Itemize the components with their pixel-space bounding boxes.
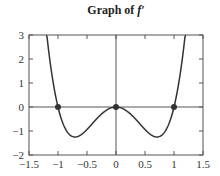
y-tick-label: 1 — [19, 77, 25, 89]
y-tick-label: 3 — [19, 29, 25, 41]
x-tick-label: 1.5 — [196, 158, 210, 170]
x-tick-label: 0 — [113, 158, 119, 170]
x-tick-label: 0.5 — [138, 158, 152, 170]
zero-point-marker — [55, 104, 61, 110]
zero-point-marker — [171, 104, 177, 110]
x-tick-label: −0.5 — [77, 158, 97, 170]
y-tick-label: −2 — [12, 149, 24, 161]
x-tick-label: −1 — [52, 158, 64, 170]
y-tick-label: 2 — [19, 53, 25, 65]
chart-plot: −1.5−1−0.500.511.5−2−10123 — [0, 0, 220, 176]
x-tick-label: 1 — [171, 158, 177, 170]
tick-labels: −1.5−1−0.500.511.5−2−10123 — [12, 29, 210, 170]
zero-point-marker — [113, 104, 119, 110]
y-tick-label: 0 — [19, 101, 25, 113]
y-tick-label: −1 — [12, 125, 24, 137]
